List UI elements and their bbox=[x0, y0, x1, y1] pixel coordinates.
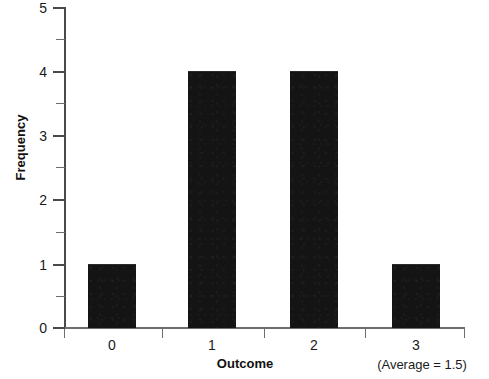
y-axis-title: Frequency bbox=[13, 98, 28, 198]
y-tick-minor-4_5 bbox=[56, 39, 65, 40]
y-tick-minor-0_5 bbox=[56, 296, 65, 297]
y-tick-minor-3_5 bbox=[56, 103, 65, 104]
y-axis-spine bbox=[64, 7, 66, 329]
x-tick-boundary-0 bbox=[64, 329, 65, 338]
bar-outcome-2 bbox=[290, 71, 338, 328]
y-tick-label-5-wrap: 5 bbox=[0, 1, 47, 15]
bar-chart-figure: 5 4 3 2 1 0 0 1 2 3 Frequency Outcome (A… bbox=[0, 0, 489, 379]
average-annotation: (Average = 1.5) bbox=[358, 357, 486, 372]
y-tick-4 bbox=[53, 71, 65, 73]
y-tick-minor-1_5 bbox=[56, 232, 65, 233]
x-tick-boundary-2 bbox=[264, 329, 265, 338]
x-tick-boundary-3 bbox=[365, 329, 366, 338]
x-tick-boundary-4 bbox=[464, 329, 465, 338]
bar-outcome-3 bbox=[392, 264, 440, 328]
x-tick-boundary-1 bbox=[162, 329, 163, 338]
y-tick-label-0: 0 bbox=[3, 321, 47, 335]
x-tick-label-1: 1 bbox=[182, 336, 242, 354]
y-tick-label-4-wrap: 4 bbox=[0, 65, 47, 79]
x-axis-title: Outcome bbox=[175, 356, 315, 371]
bar-outcome-0 bbox=[88, 264, 136, 328]
y-tick-label-1-wrap: 1 bbox=[0, 258, 47, 272]
y-tick-1 bbox=[53, 264, 65, 266]
y-tick-label-5: 5 bbox=[3, 1, 47, 15]
y-tick-2 bbox=[53, 199, 65, 201]
y-tick-label-4: 4 bbox=[3, 65, 47, 79]
y-tick-label-1: 1 bbox=[3, 258, 47, 272]
y-tick-label-0-wrap: 0 bbox=[0, 321, 47, 335]
x-tick-label-0: 0 bbox=[82, 336, 142, 354]
bar-outcome-1 bbox=[188, 71, 236, 328]
x-tick-label-3: 3 bbox=[386, 336, 446, 354]
y-tick-minor-2_5 bbox=[56, 167, 65, 168]
y-tick-3 bbox=[53, 135, 65, 137]
y-tick-5 bbox=[53, 7, 65, 9]
x-tick-label-2: 2 bbox=[284, 336, 344, 354]
